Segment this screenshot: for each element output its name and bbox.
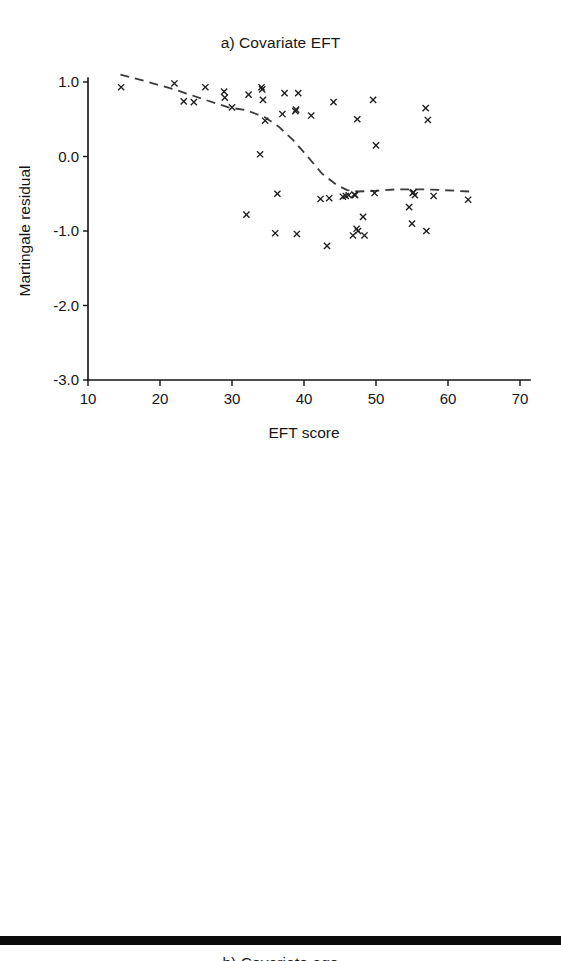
figure-container: a) Covariate EFT 1.00.0-1.0-2.0-3.010203… [0,0,561,961]
x-tick-label: 20 [152,390,169,407]
data-point-marker [171,80,177,86]
data-point-marker [279,111,285,117]
lowess-smoother-line [120,75,469,192]
data-point-marker [118,84,124,90]
data-point-marker [272,230,278,236]
data-point-marker [423,105,429,111]
data-point-marker [245,92,251,98]
data-point-marker [324,243,330,249]
data-point-marker [229,104,235,110]
data-point-marker [373,142,379,148]
data-point-marker [281,90,287,96]
data-point-marker [181,98,187,104]
x-tick-label: 50 [368,390,385,407]
data-point-marker [425,117,431,123]
panel-covariate-eft: a) Covariate EFT 1.00.0-1.0-2.0-3.010203… [0,0,561,470]
y-tick-label: 1.0 [58,73,79,90]
panel-covariate-age: b) Covariate age 1.00.0-1.0-2.0-3.070809… [0,460,561,910]
x-tick-label: 60 [440,390,457,407]
data-point-marker [423,228,429,234]
data-point-marker [330,99,336,105]
x-axis-title: EFT score [268,424,339,441]
data-point-marker [409,220,415,226]
page-footer-rule [0,936,561,945]
scatter-series [118,80,471,249]
x-tick-label: 10 [80,390,97,407]
data-point-marker [370,97,376,103]
x-tick-label: 70 [512,390,529,407]
data-point-marker [354,116,360,122]
data-point-marker [257,151,263,157]
data-point-marker [221,89,227,95]
data-point-marker [431,193,437,199]
x-tick-label: 40 [296,390,313,407]
data-point-marker [274,191,280,197]
y-axis-title: Martingale residual [16,166,33,297]
data-point-marker [222,95,228,101]
data-point-marker [260,97,266,103]
data-point-marker [294,231,300,237]
data-point-marker [465,197,471,203]
data-point-marker [360,214,366,220]
y-tick-label: -3.0 [53,371,79,388]
data-point-marker [295,90,301,96]
data-point-marker [361,232,367,238]
data-point-marker [355,228,361,234]
data-point-marker [326,195,332,201]
data-point-marker [202,84,208,90]
data-point-marker [317,196,323,202]
data-point-marker [243,212,249,218]
x-tick-label: 30 [224,390,241,407]
data-point-marker [191,99,197,105]
y-tick-label: -1.0 [53,222,79,239]
y-tick-label: 0.0 [58,148,79,165]
data-point-marker [308,112,314,118]
data-point-marker [406,204,412,210]
y-tick-label: -2.0 [53,297,79,314]
plot-a-canvas: 1.00.0-1.0-2.0-3.010203040506070EFT scor… [0,0,561,470]
